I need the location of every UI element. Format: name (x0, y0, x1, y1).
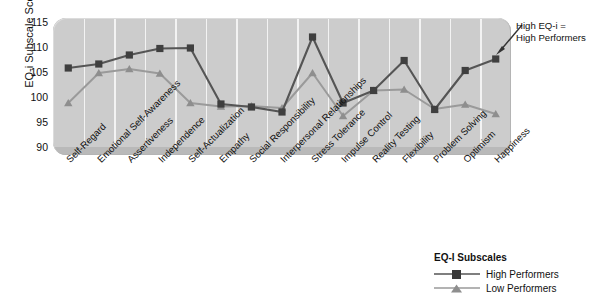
legend-item-high-performers: High Performers (434, 267, 584, 281)
legend-symbol-square (434, 268, 480, 280)
legend-title: EQ-I Subscales (434, 252, 584, 263)
x-axis-label: Problem Solving (431, 108, 488, 165)
legend: EQ-I Subscales High Performers Low Perfo… (434, 252, 584, 295)
legend-symbol-triangle (434, 282, 480, 294)
legend-item-low-performers: Low Performers (434, 281, 584, 295)
chart-container: EQ-i Subscale Scores 1151101051009590 Se… (0, 0, 589, 304)
annotation-line-2: High Performers (516, 32, 586, 44)
x-axis-label: Stress Tolerance (309, 107, 367, 165)
annotation-high-eqi: High EQ-i = High Performers (516, 20, 586, 43)
annotation-line-1: High EQ-i = (516, 20, 586, 32)
legend-label-high-performers: High Performers (486, 269, 559, 280)
x-axis-label: Happiness (492, 125, 532, 165)
legend-label-low-performers: Low Performers (486, 283, 557, 294)
